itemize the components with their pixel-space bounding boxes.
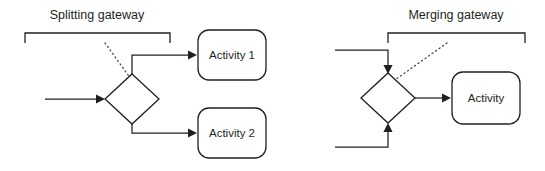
merge-output-arrowhead <box>442 93 451 102</box>
splitting-gateway-diamond[interactable] <box>105 74 159 124</box>
split-input-connector <box>45 94 105 103</box>
merging-gateway-panel: Merging gateway A <box>335 8 525 147</box>
merge-input-top-line <box>335 50 388 66</box>
split-branch-top-connector <box>132 50 197 74</box>
split-branch-top-line <box>132 55 190 74</box>
merge-input-bottom-line <box>335 131 388 147</box>
split-input-arrowhead <box>96 94 105 103</box>
splitting-gateway-leader-line <box>105 43 131 79</box>
merge-input-bottom-arrowhead <box>383 123 392 132</box>
merging-gateway-diamond[interactable] <box>361 73 415 123</box>
merging-gateway-bracket <box>388 33 525 43</box>
splitting-gateway-panel: Splitting gateway <box>25 8 266 158</box>
activity-label: Activity <box>468 92 505 104</box>
split-branch-top-arrowhead <box>188 50 197 59</box>
merge-input-top-connector <box>335 50 393 74</box>
splitting-gateway-caption: Splitting gateway <box>50 8 145 22</box>
activity-node[interactable]: Activity <box>452 72 520 124</box>
merge-input-bottom-connector <box>335 123 393 147</box>
merging-gateway-leader-line <box>392 43 447 82</box>
activity-2-label: Activity 2 <box>209 127 255 139</box>
merge-output-connector <box>415 93 451 102</box>
split-branch-bottom-arrowhead <box>188 128 197 137</box>
split-branch-bottom-connector <box>132 124 197 138</box>
diagram-canvas: Splitting gateway <box>0 0 545 171</box>
activity-1-node[interactable]: Activity 1 <box>198 30 266 80</box>
gateway-diagram: Splitting gateway <box>0 0 545 171</box>
splitting-gateway-bracket <box>25 33 170 43</box>
activity-1-label: Activity 1 <box>209 49 255 61</box>
activity-2-node[interactable]: Activity 2 <box>198 108 266 158</box>
split-branch-bottom-line <box>132 124 190 133</box>
merging-gateway-caption: Merging gateway <box>408 8 504 22</box>
